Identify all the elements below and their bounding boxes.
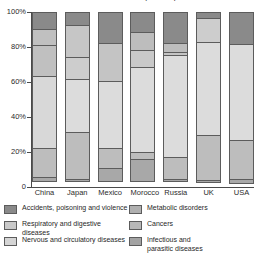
bar-segment[interactable] xyxy=(98,12,123,44)
bar-segment[interactable] xyxy=(65,79,90,133)
bar-uk[interactable] xyxy=(196,12,221,187)
legend-item[interactable]: Respiratory and digestive diseases xyxy=(4,220,129,233)
bar-segment[interactable] xyxy=(98,43,123,82)
legend-item[interactable]: Cancers xyxy=(129,220,254,233)
bar-china[interactable] xyxy=(32,12,57,187)
bar-segment[interactable] xyxy=(98,148,123,169)
y-axis-tick-label: 100% xyxy=(7,8,26,16)
bar-segment[interactable] xyxy=(229,140,254,180)
bar-segment[interactable] xyxy=(229,179,254,184)
legend-swatch xyxy=(4,205,17,214)
bar-segment[interactable] xyxy=(130,32,155,51)
bar-segment[interactable] xyxy=(32,29,57,47)
bar-segment[interactable] xyxy=(65,25,90,58)
y-axis-tick-label: 60% xyxy=(11,78,26,86)
legend-item[interactable]: Metabolic disorders xyxy=(129,204,254,217)
legend-label: Accidents, poisoning and violence xyxy=(22,204,127,213)
x-axis-label: Morocco xyxy=(130,189,155,197)
bar-russia[interactable] xyxy=(163,12,188,187)
bar-usa[interactable] xyxy=(229,12,254,187)
bar-segment[interactable] xyxy=(196,180,221,184)
bar-japan[interactable] xyxy=(65,12,90,187)
chart-container: Causes of death by country 100%80%60%40%… xyxy=(0,0,256,253)
bar-mexico[interactable] xyxy=(98,12,123,187)
x-axis-label: Russia xyxy=(163,189,188,197)
chart-legend: Accidents, poisoning and violenceRespira… xyxy=(4,204,254,251)
x-axis-label-group: ChinaJapanMexicoMoroccoRussiaUKUSA xyxy=(32,189,254,197)
bar-segment[interactable] xyxy=(65,12,90,26)
legend-swatch xyxy=(129,237,142,246)
legend-label: Metabolic disorders xyxy=(147,204,208,213)
x-axis-label: Mexico xyxy=(98,189,123,197)
bar-segment[interactable] xyxy=(65,179,90,183)
bar-segment[interactable] xyxy=(32,45,57,77)
bar-segment[interactable] xyxy=(32,148,57,178)
y-axis-tick-mark xyxy=(27,12,31,13)
x-axis-label: China xyxy=(32,189,57,197)
bar-segment[interactable] xyxy=(32,177,57,182)
bar-segment[interactable] xyxy=(32,76,57,150)
y-axis-tick-label: 80% xyxy=(11,43,26,51)
bar-segment[interactable] xyxy=(229,12,254,45)
legend-label: Respiratory and digestive diseases xyxy=(22,220,129,237)
legend-swatch xyxy=(4,237,17,246)
chart-title: Causes of death by country xyxy=(0,0,256,1)
bar-segment[interactable] xyxy=(130,67,155,153)
legend-item[interactable]: Accidents, poisoning and violence xyxy=(4,204,129,217)
bar-segment[interactable] xyxy=(32,12,57,30)
legend-column-left: Accidents, poisoning and violenceRespira… xyxy=(4,204,129,251)
bar-segment[interactable] xyxy=(98,168,123,182)
y-axis-tick-mark xyxy=(27,47,31,48)
legend-swatch xyxy=(129,221,142,230)
legend-column-right: Metabolic disordersCancersInfectious and… xyxy=(129,204,254,251)
y-axis-tick-label: 20% xyxy=(11,148,26,156)
y-axis-tick-mark xyxy=(27,152,31,153)
legend-swatch xyxy=(4,221,17,230)
bar-segment[interactable] xyxy=(196,18,221,43)
bar-segment[interactable] xyxy=(130,12,155,33)
legend-label: Infectious and parasitic diseases xyxy=(147,236,203,253)
bar-segment[interactable] xyxy=(163,179,188,183)
bar-segment[interactable] xyxy=(130,159,155,182)
bar-group xyxy=(32,12,254,187)
x-axis-label: Japan xyxy=(65,189,90,197)
y-axis-tick-mark xyxy=(27,187,31,188)
legend-swatch xyxy=(129,205,142,214)
y-axis-tick-label: 0 xyxy=(22,183,26,191)
y-axis-tick-mark xyxy=(27,82,31,83)
x-axis-label: UK xyxy=(196,189,221,197)
bar-segment[interactable] xyxy=(163,12,188,44)
bar-segment[interactable] xyxy=(65,132,90,179)
bar-segment[interactable] xyxy=(163,55,188,158)
legend-label: Nervous and circulatory diseases xyxy=(22,236,125,245)
legend-item[interactable]: Nervous and circulatory diseases xyxy=(4,236,129,249)
bar-segment[interactable] xyxy=(196,135,221,181)
legend-item[interactable]: Infectious and parasitic diseases xyxy=(129,236,254,253)
bar-segment[interactable] xyxy=(130,50,155,68)
bar-segment[interactable] xyxy=(229,44,254,140)
y-axis-tick-mark xyxy=(27,117,31,118)
bar-segment[interactable] xyxy=(163,157,188,180)
x-axis-label: USA xyxy=(229,189,254,197)
bar-segment[interactable] xyxy=(65,57,90,80)
legend-label: Cancers xyxy=(147,220,173,229)
bar-morocco[interactable] xyxy=(130,12,155,187)
bar-segment[interactable] xyxy=(98,81,123,149)
y-axis-tick-label: 40% xyxy=(11,113,26,121)
bar-segment[interactable] xyxy=(196,42,221,137)
